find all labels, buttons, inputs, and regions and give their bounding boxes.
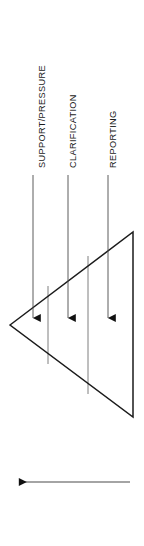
stage-label-support-pressure: SUPPORT/PRESSURE (38, 65, 47, 168)
stage-label-clarification: CLARIFICATION (69, 94, 78, 168)
stage-label-reporting: REPORTING (109, 110, 118, 168)
funnel-diagram: SUPPORT/PRESSURE CLARIFICATION REPORTING (0, 0, 144, 546)
diagram-canvas (0, 0, 144, 546)
triangle-outline (10, 232, 133, 417)
